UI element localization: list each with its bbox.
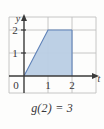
y-axis-label: y — [15, 13, 21, 24]
x-axis-label: t — [98, 73, 101, 84]
y-tick-label-2: 2 — [12, 24, 18, 36]
figure-container: y t 0 2 1 1 2 g(2) = 3 — [0, 0, 104, 129]
x-tick-label-2: 2 — [69, 79, 75, 91]
coordinate-plot: y t 0 2 1 1 2 — [0, 0, 104, 100]
y-tick-label-1: 1 — [12, 47, 18, 59]
plot-svg: y t 0 2 1 1 2 — [0, 0, 104, 100]
figure-caption: g(2) = 3 — [0, 101, 104, 116]
origin-tick-label: 0 — [13, 79, 19, 91]
x-tick-label-1: 1 — [45, 79, 51, 91]
